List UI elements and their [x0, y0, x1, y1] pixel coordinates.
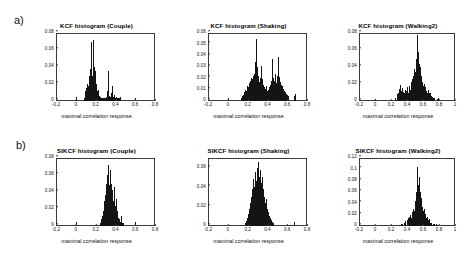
x-axis-tick-label: 0.6 [132, 101, 138, 108]
x-axis-tick-mark [439, 224, 440, 226]
x-axis-tick-mark [115, 99, 116, 101]
x-axis-tick-mark [96, 99, 97, 101]
histogram-bar [273, 223, 274, 226]
plot-area: 00.020.040.060.080.10.12-0.200.20.40.60.… [359, 158, 455, 226]
x-axis-tick-label: -0.2 [204, 101, 212, 108]
y-axis-tick-mark [208, 76, 210, 77]
x-axis-tick-mark [287, 99, 288, 101]
y-axis-tick-mark [208, 204, 210, 205]
x-axis-tick-mark [407, 99, 408, 101]
chart-panel-kcf-walking2: KCF histogram (Walking2)00.020.040.060.0… [337, 22, 459, 122]
x-axis-tick-label: 0.4 [404, 226, 410, 233]
x-axis-tick-mark [439, 99, 440, 101]
x-axis-tick-label: 0.8 [152, 101, 158, 108]
x-axis-tick-mark [359, 99, 360, 101]
y-axis-tick-label: 0.04 [197, 185, 208, 190]
y-axis-tick-mark [56, 206, 58, 207]
chart-title: KCF histogram (Walking2) [337, 22, 459, 29]
y-axis-tick-label: 0.08 [45, 31, 56, 36]
x-axis-tick-label: 1 [454, 101, 457, 108]
y-axis-tick-label: 0.04 [348, 65, 359, 70]
x-axis-label: maximal correlation response [337, 113, 459, 119]
x-axis-label: maximal correlation response [34, 238, 159, 244]
x-axis-label: maximal correlation response [186, 238, 311, 244]
panel-label-b: b) [16, 139, 26, 151]
x-axis-tick-label: 0.8 [152, 226, 158, 233]
y-axis-tick-mark [56, 47, 58, 48]
chart-title: KCF histogram (Shaking) [186, 22, 311, 29]
x-axis-tick-mark [228, 99, 229, 101]
x-axis-tick-mark [423, 99, 424, 101]
histogram-bars [56, 158, 155, 226]
chart-panel-sikcf-couple: SIKCF histogram (Couple)00.020.040.060.0… [34, 147, 159, 247]
x-axis-tick-mark [455, 224, 456, 226]
x-axis-tick-label: 0.8 [304, 101, 310, 108]
x-axis-tick-label: 0.2 [92, 226, 98, 233]
y-axis-tick-label: 0.1 [350, 167, 359, 172]
x-axis-tick-label: 0.6 [420, 101, 426, 108]
y-axis-tick-mark [359, 64, 361, 65]
y-axis-tick-mark [208, 53, 210, 54]
x-axis-tick-label: 0.2 [244, 101, 250, 108]
x-axis-tick-mark [391, 224, 392, 226]
x-axis-tick-mark [359, 224, 360, 226]
x-axis-tick-mark [267, 99, 268, 101]
x-axis-tick-label: -0.2 [52, 226, 60, 233]
histogram-bars [208, 33, 307, 101]
chart-title: KCF histogram (Couple) [34, 22, 159, 29]
y-axis-tick-label: 0.08 [348, 178, 359, 183]
x-axis-tick-mark [56, 224, 57, 226]
x-axis-tick-label: 0 [227, 226, 230, 233]
x-axis-tick-mark [208, 99, 209, 101]
y-axis-tick-label: 0.02 [45, 82, 56, 87]
y-axis-tick-label: 0.02 [348, 82, 359, 87]
x-axis-tick-label: 0.2 [388, 101, 394, 108]
y-axis-tick-mark [359, 30, 361, 31]
x-axis-tick-mark [76, 224, 77, 226]
histogram-bar [123, 223, 124, 226]
x-axis-tick-label: 0.4 [112, 226, 118, 233]
panel-label-a: a) [14, 14, 24, 26]
x-axis-tick-label: 0.2 [244, 226, 250, 233]
x-axis-tick-label: 0 [75, 226, 78, 233]
x-axis-tick-mark [135, 224, 136, 226]
y-axis-tick-label: 0.04 [45, 190, 56, 195]
y-axis-tick-label: 0.06 [348, 48, 359, 53]
x-axis-tick-label: 0.8 [436, 226, 442, 233]
plot-area: 00.020.040.060.08-0.200.20.40.60.8 [56, 158, 155, 226]
plot-area: 00.020.040.06-0.200.20.40.60.8 [208, 158, 307, 226]
x-axis-tick-label: 0.6 [132, 226, 138, 233]
x-axis-tick-label: 0.2 [92, 101, 98, 108]
x-axis-tick-label: 0.2 [388, 226, 394, 233]
histogram-bars [56, 33, 155, 101]
plot-area: 00.010.020.030.040.050.06-0.200.20.40.60… [208, 33, 307, 101]
y-axis-tick-mark [359, 189, 361, 190]
x-axis-tick-mark [455, 99, 456, 101]
histogram-bars [359, 33, 455, 101]
x-axis-tick-label: 0.6 [284, 101, 290, 108]
x-axis-tick-mark [155, 99, 156, 101]
histogram-bar [295, 94, 296, 101]
x-axis-label: maximal correlation response [186, 113, 311, 119]
y-axis-tick-mark [56, 189, 58, 190]
x-axis-tick-mark [208, 224, 209, 226]
x-axis-tick-label: 0.6 [420, 226, 426, 233]
y-axis-tick-mark [359, 201, 361, 202]
x-axis-tick-label: 1 [454, 226, 457, 233]
x-axis-tick-mark [228, 224, 229, 226]
x-axis-tick-mark [155, 224, 156, 226]
y-axis-tick-label: 0.12 [348, 156, 359, 161]
y-axis-tick-label: 0.01 [197, 87, 208, 92]
x-axis-tick-label: -0.2 [355, 101, 363, 108]
chart-title: SIKCF histogram (Shaking) [186, 147, 311, 154]
x-axis-tick-label: -0.2 [204, 226, 212, 233]
x-axis-label: maximal correlation response [337, 238, 459, 244]
y-axis-tick-label: 0.06 [348, 190, 359, 195]
y-axis-tick-label: 0.05 [197, 42, 208, 47]
y-axis-tick-label: 0.08 [348, 31, 359, 36]
y-axis-tick-mark [56, 64, 58, 65]
chart-panel-sikcf-walking2: SIKCF histogram (Walking2)00.020.040.060… [337, 147, 459, 247]
y-axis-tick-mark [208, 64, 210, 65]
x-axis-tick-label: 0 [227, 101, 230, 108]
x-axis-tick-label: 0 [374, 226, 377, 233]
